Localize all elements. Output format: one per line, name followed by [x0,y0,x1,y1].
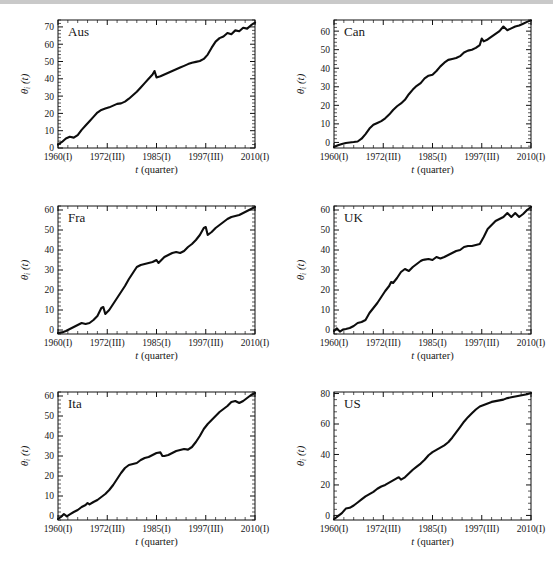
y-tick-labels: 0102030405060 [321,205,331,335]
x-tick-label: 1985(I) [142,152,171,163]
y-tick-label: 30 [45,265,55,275]
x-tick-labels: 1960(I)1972(III)1985(I)1997(III)2010(I) [320,338,546,349]
plot-frame [58,392,255,520]
x-tick-label: 1972(III) [366,338,401,349]
y-tick-label: 60 [321,205,331,215]
x-tick-label: 1972(III) [366,152,401,163]
x-tick-label: 1960(I) [320,152,349,163]
y-tick-label: 60 [321,27,331,37]
x-tick-label: 1960(I) [44,152,73,163]
y-axis-title: θi (t) [294,445,308,466]
x-tick-label: 2010(I) [517,524,546,535]
x-tick-label: 1985(I) [418,338,447,349]
y-tick-label: 50 [45,225,55,235]
x-tick-label: 1972(III) [366,524,401,535]
y-tick-label: 40 [45,431,55,441]
x-tick-label: 2010(I) [241,152,270,163]
chart-panel-uk: 01020304050601960(I)1972(III)1985(I)1997… [276,190,553,376]
x-tick-label: 1997(III) [464,338,499,349]
plot-frame [334,392,531,520]
x-tick-label: 1972(III) [90,524,125,535]
y-tick-label: 10 [45,491,55,501]
x-tick-label: 1960(I) [320,524,349,535]
panel-title-uk: UK [344,210,363,225]
y-tick-label: 20 [45,109,55,119]
x-tick-label: 1972(III) [90,338,125,349]
y-tick-label: 50 [321,225,331,235]
x-tick-label: 1972(III) [90,152,125,163]
chart-svg-fra: 01020304050601960(I)1972(III)1985(I)1997… [0,190,276,376]
y-tick-label: 50 [45,411,55,421]
plot-frame [334,20,531,148]
x-tick-label: 1997(III) [188,524,223,535]
plot-frame [58,206,255,334]
svg-text:θi (t): θi (t) [294,259,308,280]
y-tick-label: 20 [321,285,331,295]
y-tick-label: 60 [45,205,55,215]
x-tick-label: 1997(III) [188,338,223,349]
y-tick-label: 60 [321,419,331,429]
y-tick-label: 30 [45,451,55,461]
chart-svg-ita: 01020304050601960(I)1972(III)1985(I)1997… [0,376,276,562]
x-tick-label: 2010(I) [517,152,546,163]
svg-text:θi (t): θi (t) [18,445,32,466]
x-tick-label: 1997(III) [464,152,499,163]
y-tick-label: 10 [45,126,55,136]
y-tick-label: 20 [45,471,55,481]
figure-panel-grid: 0102030405060701960(I)1972(III)1985(I)19… [0,4,553,562]
y-tick-label: 40 [45,74,55,84]
panel-title-can: Can [344,24,365,39]
y-tick-label: 0 [325,138,330,148]
y-tick-label: 20 [321,480,331,490]
panel-title-us: US [344,396,361,411]
x-tick-label: 1960(I) [44,338,73,349]
y-tick-label: 40 [321,245,331,255]
x-tick-label: 1985(I) [418,152,447,163]
x-tick-label: 2010(I) [241,338,270,349]
y-tick-label: 40 [45,245,55,255]
x-tick-labels: 1960(I)1972(III)1985(I)1997(III)2010(I) [44,338,270,349]
y-tick-label: 10 [321,119,331,129]
y-tick-label: 60 [45,40,55,50]
y-tick-label: 30 [45,92,55,102]
x-tick-label: 1997(III) [188,152,223,163]
panel-title-aus: Aus [68,24,89,39]
x-tick-labels: 1960(I)1972(III)1985(I)1997(III)2010(I) [44,152,270,163]
chart-panel-us: 0204060801960(I)1972(III)1985(I)1997(III… [276,376,553,562]
panel-title-ita: Ita [68,396,82,411]
y-tick-labels: 020406080 [321,389,331,521]
y-tick-labels: 0102030405060 [45,205,55,335]
x-tick-label: 1985(I) [142,338,171,349]
chart-panel-fra: 01020304050601960(I)1972(III)1985(I)1997… [0,190,276,376]
chart-panel-ita: 01020304050601960(I)1972(III)1985(I)1997… [0,376,276,562]
y-axis-title: θi (t) [294,259,308,280]
x-tick-label: 1997(III) [464,524,499,535]
y-tick-label: 70 [45,22,55,32]
x-tick-label: 1985(I) [142,524,171,535]
x-axis-title: t (quarter) [411,350,454,362]
chart-panel-aus: 0102030405060701960(I)1972(III)1985(I)19… [0,4,276,190]
y-tick-label: 10 [321,305,331,315]
y-tick-label: 0 [325,325,330,335]
x-tick-label: 2010(I) [517,338,546,349]
plot-frame [58,20,255,148]
x-axis-title: t (quarter) [135,350,178,362]
y-tick-label: 10 [45,305,55,315]
y-tick-label: 20 [45,285,55,295]
x-tick-labels: 1960(I)1972(III)1985(I)1997(III)2010(I) [320,524,546,535]
x-tick-label: 1960(I) [44,524,73,535]
y-tick-labels: 0102030405060 [45,391,55,521]
x-axis-title: t (quarter) [411,536,454,548]
y-tick-label: 50 [45,57,55,67]
y-tick-label: 60 [45,391,55,401]
y-axis-title: θi (t) [18,445,32,466]
x-tick-labels: 1960(I)1972(III)1985(I)1997(III)2010(I) [320,152,546,163]
y-tick-label: 30 [321,82,331,92]
y-tick-label: 0 [49,325,54,335]
x-tick-labels: 1960(I)1972(III)1985(I)1997(III)2010(I) [44,524,270,535]
x-axis-title: t (quarter) [135,536,178,548]
x-tick-label: 2010(I) [241,524,270,535]
y-axis-title: θi (t) [18,259,32,280]
plot-frame [334,206,531,334]
y-tick-label: 80 [321,389,331,399]
